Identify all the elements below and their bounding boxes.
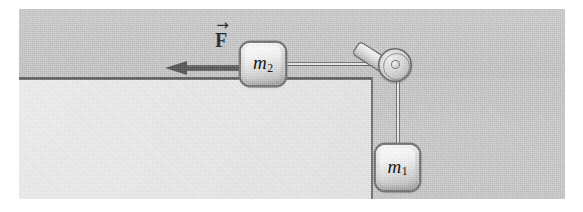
mass-symbol: m xyxy=(387,156,401,177)
physics-diagram-figure: → F m2 m1 xyxy=(0,0,583,212)
table-surface-line xyxy=(19,77,373,80)
mass-block-m1-label: m1 xyxy=(387,156,407,180)
mass-subscript: 2 xyxy=(267,62,273,75)
mass-block-m2-label: m2 xyxy=(253,52,273,76)
pulley-axle xyxy=(392,61,399,68)
diagram-scene: → F m2 m1 xyxy=(19,9,565,199)
force-label-letter: F xyxy=(204,30,238,50)
table-front-face xyxy=(19,78,372,199)
pulley xyxy=(378,48,412,82)
background-wall xyxy=(19,9,565,79)
force-label: → F xyxy=(204,21,238,50)
mass-symbol: m xyxy=(253,52,267,73)
mass-block-m1: m1 xyxy=(376,145,419,190)
force-arrow-head xyxy=(165,61,187,75)
mass-block-m2: m2 xyxy=(241,43,285,85)
mass-subscript: 1 xyxy=(402,165,408,178)
table-right-edge-line xyxy=(371,78,373,199)
